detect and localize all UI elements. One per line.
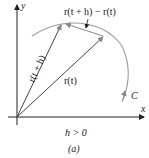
curve-c <box>32 23 128 100</box>
x-axis-label: x <box>140 103 146 114</box>
r-t-label: r(t) <box>64 75 77 87</box>
derivative-diagram: y x r(t + h) − r(t) r(t + h) r(t) C h > … <box>0 0 149 158</box>
vector-difference <box>66 24 103 36</box>
difference-label: r(t + h) − r(t) <box>64 6 116 18</box>
curve-label: C <box>131 90 138 101</box>
condition-label: h > 0 <box>65 127 87 138</box>
caption: (a) <box>68 143 80 155</box>
r-t-plus-h-label: r(t + h) <box>26 53 49 84</box>
y-axis-label: y <box>20 0 26 11</box>
